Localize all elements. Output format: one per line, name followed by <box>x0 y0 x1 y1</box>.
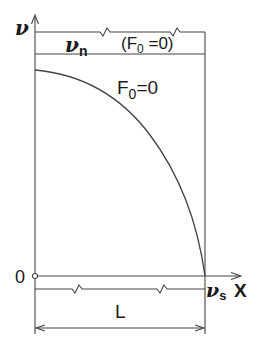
velocity-profile-diagram: ν νn (F0 =0) F0=0 0 νs X L <box>0 0 262 353</box>
top-band-line <box>35 28 205 36</box>
endpoint-label: νs <box>206 279 226 303</box>
origin-label: 0 <box>15 267 25 287</box>
curve-label: F0=0 <box>117 77 158 102</box>
lower-band-line <box>35 285 205 293</box>
origin-marker <box>33 274 38 279</box>
length-label: L <box>115 301 126 322</box>
velocity-profile-curve <box>35 70 205 276</box>
y-axis-label: ν <box>15 16 29 40</box>
top-band-label: νn <box>65 33 87 59</box>
top-band-condition: (F0 =0) <box>121 34 174 56</box>
x-axis-label: X <box>234 280 247 301</box>
